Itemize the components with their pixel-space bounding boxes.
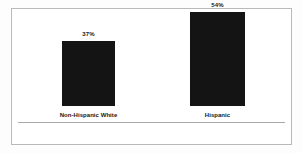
bar-chart-figure: 37% Non-Hispanic White 54% Hispanic [0, 0, 302, 153]
bar-category-label: Hispanic [164, 111, 271, 119]
bar-group-non-hispanic-white: 37% Non-Hispanic White [62, 41, 115, 106]
bar-rect [62, 41, 115, 106]
bar-category-label: Non-Hispanic White [36, 111, 141, 119]
bar-group-hispanic: 54% Hispanic [190, 12, 245, 106]
category-axis-line [18, 122, 285, 123]
bar-value-label: 37% [62, 30, 115, 38]
bar-rect [190, 12, 245, 106]
bar-value-label: 54% [190, 1, 245, 9]
plot-area: 37% Non-Hispanic White 54% Hispanic [11, 8, 292, 145]
